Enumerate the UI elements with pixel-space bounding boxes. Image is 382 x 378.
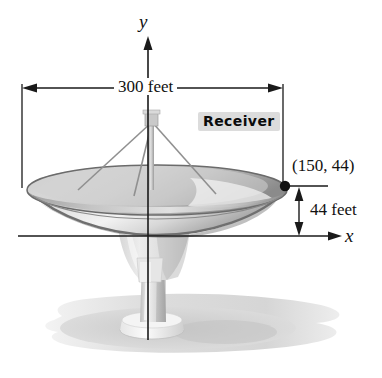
dish-group bbox=[27, 165, 287, 238]
dimension-44-feet-label: 44 feet bbox=[310, 201, 357, 218]
rim-point-coordinate-label: (150, 44) bbox=[292, 157, 354, 174]
satellite-dish-figure: 300 feet Receiver (150, 44) 44 feet x y bbox=[0, 0, 382, 378]
y-axis-arrowhead bbox=[144, 36, 153, 50]
dimension-arrow-down bbox=[295, 222, 304, 236]
receiver-label: Receiver bbox=[198, 112, 280, 131]
figure-graphics bbox=[0, 0, 382, 378]
receiver-housing-cap bbox=[143, 110, 160, 114]
receiver-mast bbox=[148, 120, 154, 190]
dimension-arrow-right bbox=[268, 84, 283, 93]
ground-shadow-group bbox=[45, 294, 339, 353]
ground-shadow-dark-spot bbox=[173, 320, 277, 344]
rim-point-group bbox=[280, 181, 328, 191]
mount-yoke-plate bbox=[140, 262, 151, 282]
dimension-44-feet bbox=[295, 187, 304, 236]
dimension-300-feet-label: 300 feet bbox=[114, 78, 177, 95]
x-axis-arrowhead bbox=[328, 232, 342, 241]
rim-point-marker bbox=[280, 181, 290, 191]
dimension-arrow-left bbox=[22, 84, 37, 93]
dimension-arrow-up bbox=[295, 187, 304, 201]
x-axis-label: x bbox=[345, 226, 353, 245]
y-axis-label: y bbox=[139, 12, 147, 31]
